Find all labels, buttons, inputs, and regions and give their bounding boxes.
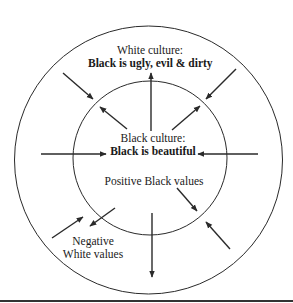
inner-circle-black-culture [73, 81, 227, 235]
negative-white-values-line2: White values [58, 248, 128, 261]
black-culture-subtitle: Black is beautiful [98, 145, 208, 158]
white-culture-title: White culture: [88, 44, 212, 57]
negative-white-values-label: Negative White values [58, 235, 128, 261]
arrow-upper-left-outward [100, 107, 127, 129]
black-culture-title: Black culture: [98, 132, 208, 145]
arrow-upper-right-outward [172, 106, 200, 130]
arrow-lower-right-outward [177, 188, 197, 211]
positive-black-values-label: Positive Black values [96, 175, 212, 188]
white-culture-label: White culture: Black is ugly, evil & dir… [88, 44, 212, 70]
arrow-upper-left-inward [63, 73, 93, 99]
white-culture-subtitle: Black is ugly, evil & dirty [88, 57, 212, 70]
arrow-upper-right-inward [206, 69, 236, 99]
arrow-lower-right-inward [206, 222, 230, 249]
black-culture-label: Black culture: Black is beautiful [98, 132, 208, 158]
negative-white-values-line1: Negative [58, 235, 128, 248]
bottom-divider [0, 300, 293, 302]
